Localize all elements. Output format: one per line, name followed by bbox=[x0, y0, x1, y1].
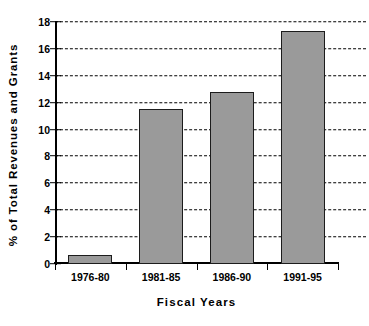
x-axis-tick-labels: 1976-801981-851986-901991-95 bbox=[55, 271, 338, 287]
x-axis-title: Fiscal Years bbox=[55, 296, 338, 308]
y-axis-tick-label: 18 bbox=[38, 16, 50, 28]
y-axis-title: % of Total Revenues and Grants bbox=[0, 0, 26, 290]
x-axis-tick-label: 1991-95 bbox=[283, 271, 322, 283]
gridline bbox=[55, 21, 366, 22]
x-axis-tick bbox=[55, 263, 56, 270]
y-axis-tick bbox=[50, 75, 61, 76]
y-axis-tick-label: 12 bbox=[38, 97, 50, 109]
x-axis-tick-label: 1986-90 bbox=[213, 271, 252, 283]
y-axis-tick bbox=[50, 183, 61, 184]
y-axis-tick bbox=[50, 156, 61, 157]
bar bbox=[210, 92, 254, 264]
x-axis-tick-label: 1981-85 bbox=[142, 271, 181, 283]
y-axis-tick-label: 16 bbox=[38, 43, 50, 55]
y-axis-tick bbox=[50, 48, 61, 49]
x-axis-tick bbox=[338, 263, 339, 270]
y-axis-line bbox=[55, 21, 57, 265]
x-axis-tick bbox=[126, 263, 127, 270]
y-axis-tick bbox=[50, 21, 61, 22]
y-axis-tick-label: 10 bbox=[38, 124, 50, 136]
bar bbox=[139, 109, 183, 264]
bar bbox=[68, 255, 112, 264]
y-axis-tick-labels: 024681012141618 bbox=[26, 0, 52, 290]
x-axis-tick bbox=[197, 263, 198, 270]
bar bbox=[281, 31, 325, 264]
plot-area bbox=[55, 22, 338, 264]
x-axis-tick bbox=[267, 263, 268, 270]
y-axis-tick bbox=[50, 102, 61, 103]
x-axis-tick-label: 1976-80 bbox=[71, 271, 110, 283]
y-axis-tick-label: 14 bbox=[38, 70, 50, 82]
bar-chart: % of Total Revenues and Grants 024681012… bbox=[0, 0, 369, 326]
y-axis-title-text: % of Total Revenues and Grants bbox=[7, 44, 19, 247]
y-axis-tick bbox=[50, 236, 61, 237]
y-axis-tick bbox=[50, 209, 61, 210]
y-axis-tick bbox=[50, 129, 61, 130]
